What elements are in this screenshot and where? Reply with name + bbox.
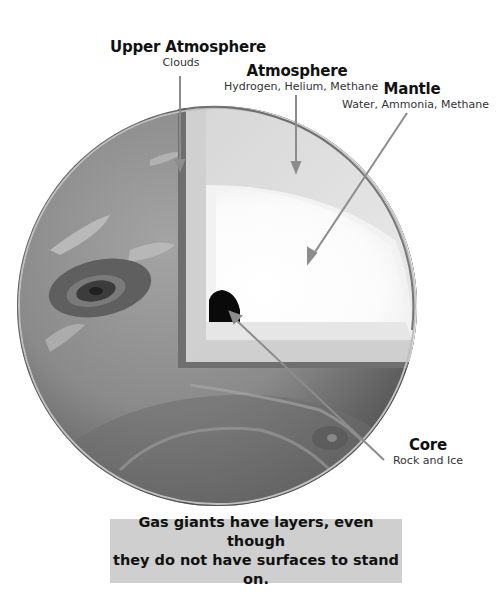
- label-mantle-sub: Water, Ammonia, Methane: [342, 98, 482, 112]
- label-upper-atmosphere-title: Upper Atmosphere: [110, 38, 252, 56]
- caption-box: Gas giants have layers, even though they…: [110, 519, 402, 583]
- label-mantle-title: Mantle: [342, 80, 482, 98]
- label-core: Core Rock and Ice: [388, 436, 468, 468]
- label-atmosphere-title: Atmosphere: [224, 62, 370, 80]
- label-core-title: Core: [388, 436, 468, 454]
- label-mantle: Mantle Water, Ammonia, Methane: [342, 80, 482, 112]
- caption-text: Gas giants have layers, even though they…: [110, 513, 402, 589]
- label-core-sub: Rock and Ice: [388, 454, 468, 468]
